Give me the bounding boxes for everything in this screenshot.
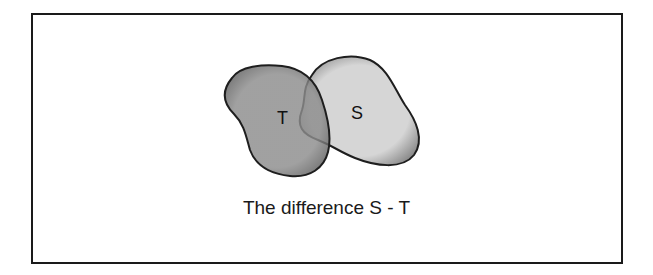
set-t-label: T [277,108,288,128]
set-s-label: S [351,103,363,123]
diagram-caption: The difference S - T [0,197,653,219]
venn-diagram: T S [0,0,653,275]
